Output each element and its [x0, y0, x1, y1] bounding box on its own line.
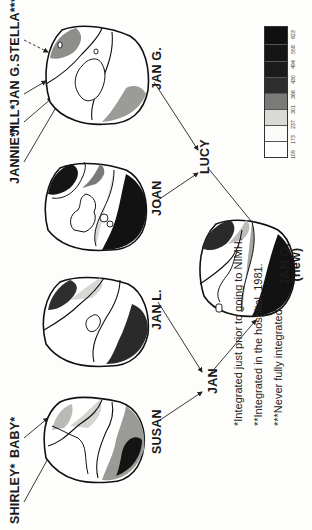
- label-susan: SUSAN: [150, 409, 164, 454]
- label-jan-l: JAN L.: [150, 289, 164, 330]
- node-lucy: LUCY: [198, 139, 212, 174]
- legend-cell-4: [265, 93, 287, 109]
- label-jan-g-new-sub: (new): [291, 243, 302, 286]
- legend-cell-2: [265, 125, 287, 141]
- legend-tick: 301: [290, 102, 296, 117]
- legend-cell-7: [265, 44, 287, 61]
- footnote-3: ***Never fully integrated.: [272, 306, 284, 426]
- legend-tick: 109: [290, 147, 296, 162]
- label-jill: JILL*: [8, 104, 22, 136]
- legend-tick: 430: [290, 72, 296, 87]
- footnote-1: *Integrated just prior to going to NIMH.: [232, 238, 244, 426]
- label-joan: JOAN: [150, 180, 164, 216]
- legend-tick: 173: [290, 132, 296, 147]
- legend-bar: [264, 26, 288, 158]
- brain-map-susan: [40, 396, 148, 486]
- legend-tick: 623: [290, 27, 296, 42]
- legend-cell-6: [265, 61, 287, 77]
- legend-cell-5: [265, 77, 287, 93]
- brain-map-joan: [42, 160, 150, 254]
- legend-tick: 494: [290, 57, 296, 72]
- label-jan-g-new: JAN G. (new): [280, 243, 302, 286]
- legend-cell-3: [265, 109, 287, 125]
- node-jan: JAN: [206, 368, 220, 394]
- label-stella: STELLA***: [8, 0, 22, 62]
- legend-cell-1: [265, 141, 287, 157]
- color-scale-legend: 109 173 237 301 366 430 494 558 623: [264, 26, 296, 158]
- legend-tick: 366: [290, 87, 296, 102]
- brain-map-jan-l: [40, 274, 152, 370]
- label-jan-g-top: JAN G.: [8, 63, 22, 106]
- label-baby: BABY*: [8, 417, 22, 458]
- legend-tick: 237: [290, 117, 296, 132]
- figure-canvas: SHIRLEY* BABY* JANNIE** JILL* JAN G. STE…: [0, 0, 312, 530]
- legend-tick: 558: [290, 42, 296, 57]
- footnote-2: **Integrated in the hospital, 1981.: [252, 263, 264, 426]
- brain-map-jan-g: [42, 22, 152, 128]
- label-shirley: SHIRLEY*: [8, 463, 22, 524]
- legend-cell-8: [265, 27, 287, 44]
- label-jan-g: JAN G.: [150, 47, 164, 90]
- legend-ticks: 109 173 237 301 366 430 494 558 623: [290, 26, 296, 162]
